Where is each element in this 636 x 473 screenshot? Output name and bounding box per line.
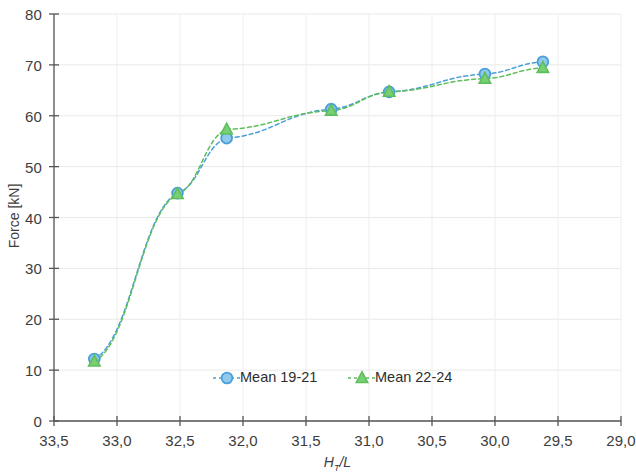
series-lines [94, 62, 543, 362]
x-tick-label: 29,0 [606, 432, 636, 449]
y-tick-label: 30 [0, 260, 42, 277]
y-tick-label: 80 [0, 6, 42, 23]
x-tick-label: 31,5 [291, 432, 321, 449]
x-tick-label: 32,5 [165, 432, 195, 449]
gridlines [54, 14, 621, 421]
x-tick-label: 30,5 [417, 432, 447, 449]
y-tick-label: 50 [0, 158, 42, 175]
legend-label-mean-22-24: Mean 22-24 [375, 369, 452, 385]
x-tick-label: 29,5 [543, 432, 573, 449]
x-axis-title-rest: /L [339, 454, 351, 470]
y-tick-label: 0 [0, 413, 42, 430]
x-axis-title-main: H [324, 454, 334, 470]
x-tick-label: 32,0 [228, 432, 258, 449]
x-tick-label: 31,0 [354, 432, 384, 449]
x-axis-title: HT/L [324, 454, 351, 473]
legend-label-mean-19-21: Mean 19-21 [240, 369, 317, 385]
x-tick-label: 33,0 [102, 432, 132, 449]
y-tick-label: 20 [0, 311, 42, 328]
y-axis-title: Force [kN] [6, 176, 22, 256]
x-tick-label: 33,5 [39, 432, 69, 449]
y-tick-label: 70 [0, 56, 42, 73]
axis-ticks [49, 14, 621, 426]
y-tick-label: 60 [0, 107, 42, 124]
x-tick-label: 30,0 [480, 432, 510, 449]
y-tick-label: 10 [0, 362, 42, 379]
